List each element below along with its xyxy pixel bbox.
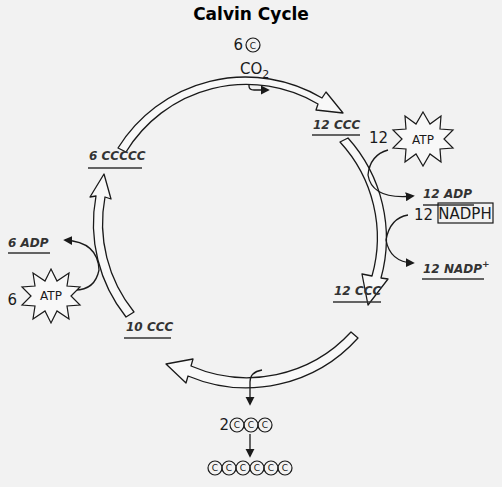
atp-starburst-icon-right: ATP bbox=[393, 112, 453, 166]
atp-starburst-icon-left: ATP bbox=[22, 269, 80, 323]
svg-text:C: C bbox=[240, 463, 246, 473]
adp-product-right: 12 ADP bbox=[423, 187, 472, 201]
adp-product-left: 6 ADP bbox=[8, 236, 49, 250]
cycle-arrow-left bbox=[90, 174, 134, 317]
node-10-ccc: 10 CCC bbox=[126, 320, 173, 334]
node-6-ccccc: 6 CCCCC bbox=[89, 149, 146, 163]
co2-count: 6 bbox=[233, 36, 243, 54]
svg-text:C: C bbox=[282, 463, 288, 473]
nadp-product: 12 NADP+ bbox=[423, 259, 490, 276]
svg-text:C: C bbox=[212, 463, 218, 473]
svg-text:C: C bbox=[248, 420, 254, 430]
cycle-arrow-top bbox=[118, 77, 343, 152]
three-carbon-molecule-icon: C C C bbox=[230, 418, 272, 432]
nadph-to-nadp-arrow bbox=[386, 215, 413, 263]
carbon-circle-icon: C bbox=[246, 38, 260, 52]
svg-text:C: C bbox=[262, 420, 268, 430]
svg-text:C: C bbox=[250, 41, 256, 51]
nadph-count: 12 bbox=[414, 206, 433, 224]
svg-text:C: C bbox=[234, 420, 240, 430]
output-count: 2 bbox=[219, 416, 229, 434]
atp-count-right: 12 bbox=[369, 129, 388, 147]
nadph-label: NADPH bbox=[438, 205, 491, 223]
node-12-ccc-bottom: 12 CCC bbox=[334, 284, 381, 298]
page-title: Calvin Cycle bbox=[193, 4, 309, 24]
six-carbon-molecule-icon: C C C C C C bbox=[208, 461, 292, 475]
svg-text:ATP: ATP bbox=[40, 289, 62, 303]
svg-text:C: C bbox=[268, 463, 274, 473]
node-12-ccc-top: 12 CCC bbox=[313, 118, 360, 132]
cycle-arrow-right bbox=[340, 138, 388, 305]
svg-text:C: C bbox=[226, 463, 232, 473]
atp-count-left: 6 bbox=[7, 291, 17, 309]
atp-to-adp-arrow-left bbox=[65, 240, 99, 290]
svg-text:ATP: ATP bbox=[412, 133, 434, 147]
cycle-arrow-bottom bbox=[166, 332, 358, 388]
svg-text:C: C bbox=[254, 463, 260, 473]
calvin-cycle-diagram: Calvin Cycle 6 C CO2 12 CCC 12 CCC 10 CC… bbox=[0, 0, 502, 487]
